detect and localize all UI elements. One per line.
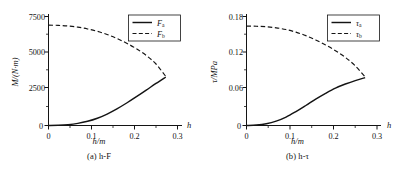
chart-b-y-major-ticks — [243, 17, 247, 126]
chart-b-ytick-0: 0 — [237, 122, 241, 131]
chart-a-ytick-0: 0 — [39, 122, 43, 131]
chart-b-legend-box — [328, 15, 380, 41]
chart-b-ytick-3: 0.18 — [229, 13, 243, 22]
chart-panel-b: 0.18 0.12 0.06 0 τ/MPa — [198, 0, 397, 174]
chart-a-ytick-3: 7500 — [29, 13, 45, 22]
chart-a-xlabel: h/m — [0, 136, 198, 146]
chart-b-ytick-2: 0.12 — [229, 48, 243, 57]
chart-b-ytick-1: 0.06 — [229, 84, 243, 93]
chart-a-caption: (a) h-F — [0, 151, 198, 161]
chart-b-caption: (b) h-τ — [198, 151, 397, 161]
chart-a-series-Fa-line — [49, 77, 166, 125]
chart-b-series-taua-line — [247, 78, 366, 126]
chart-b-legend: τa τb — [328, 15, 380, 41]
chart-a-y-major-ticks — [45, 17, 49, 126]
chart-a-legend-box — [129, 15, 181, 41]
chart-a-ytick-2: 5000 — [29, 48, 45, 57]
chart-a-ylabel: M/(N·m) — [10, 57, 20, 87]
chart-b-ylabel: τ/MPa — [209, 61, 219, 83]
chart-b-x-axis-symbol: h — [387, 120, 391, 130]
chart-a-ytick-1: 2500 — [29, 84, 45, 93]
chart-b-xlabel: h/m — [198, 136, 397, 146]
chart-a-x-axis-symbol: h — [187, 120, 191, 130]
chart-panel-a: 7500 5000 2500 0 M/(N·m) — [0, 0, 198, 174]
chart-b-svg: 0.18 0.12 0.06 0 τ/MPa — [198, 0, 397, 174]
figure-root: 7500 5000 2500 0 M/(N·m) — [0, 0, 397, 174]
chart-a-svg: 7500 5000 2500 0 M/(N·m) — [0, 0, 198, 174]
chart-a-legend: Fa Fb — [129, 15, 181, 41]
